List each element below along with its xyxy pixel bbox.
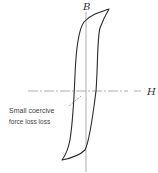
annotation-line-1: Small coercive bbox=[9, 107, 55, 114]
b-axis-label: B bbox=[82, 1, 90, 12]
annotation-line-2: force loss loss bbox=[9, 118, 51, 125]
hysteresis-diagram: B H Small coercive force loss loss bbox=[0, 0, 158, 173]
h-axis-label: H bbox=[146, 86, 156, 97]
annotation-leader bbox=[69, 96, 81, 106]
hysteresis-loop bbox=[62, 9, 109, 160]
